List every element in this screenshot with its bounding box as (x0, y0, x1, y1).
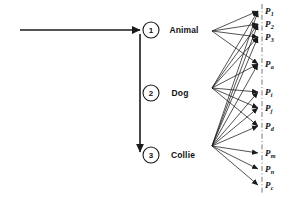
step-number-1: 1 (149, 27, 153, 35)
property-label-p-i: Pi (265, 88, 272, 97)
property-link (212, 92, 258, 146)
property-label-p-n: Pn (265, 165, 274, 174)
property-label-p-a: Pa (265, 60, 274, 69)
property-link (212, 88, 258, 126)
node-dog-label: Dog (172, 88, 189, 98)
diagram-canvas-root: 123AnimalDogCollieP1P2P3PaPiPjPdPmPnPc (0, 0, 293, 197)
node-animal-label: Animal (169, 25, 198, 35)
property-link (212, 37, 258, 88)
step-number-2: 2 (149, 90, 153, 98)
property-label-p-1: P1 (265, 7, 274, 16)
property-link (212, 24, 258, 31)
diagram-vector-layer (0, 0, 293, 197)
property-link (212, 24, 258, 146)
property-label-p-d: Pd (265, 122, 274, 131)
property-label-p-2: P2 (265, 20, 274, 29)
property-label-p-j: Pj (265, 104, 272, 113)
step-number-3: 3 (149, 152, 153, 160)
property-label-p-m: Pm (265, 149, 275, 158)
property-link (212, 11, 258, 31)
property-label-p-c: Pc (265, 181, 273, 190)
node-collie-label: Collie (171, 150, 195, 160)
property-link-group (212, 11, 258, 185)
property-label-p-3: P3 (265, 33, 274, 42)
